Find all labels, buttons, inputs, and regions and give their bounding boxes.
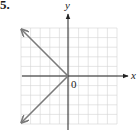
- coordinate-graph: x y 0: [0, 0, 140, 135]
- origin-label: 0: [71, 78, 77, 90]
- x-axis-label: x: [130, 69, 136, 81]
- curve-ray-lower: [22, 76, 68, 122]
- curve-ray-upper: [22, 30, 68, 76]
- y-axis-label: y: [64, 0, 70, 11]
